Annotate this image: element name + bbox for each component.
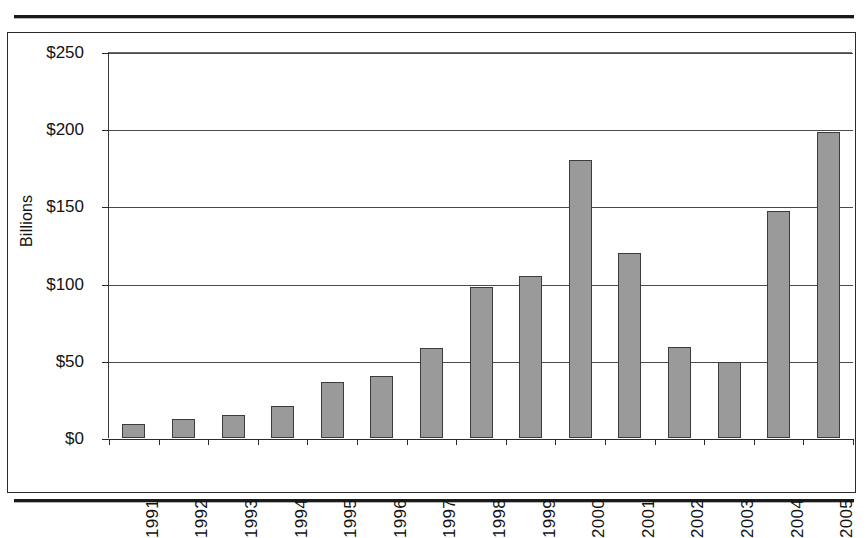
y-gridline [109,207,853,208]
x-axis-tick [704,439,705,445]
y-axis-tick [102,53,109,54]
x-axis-label: 1996 [391,499,411,538]
x-axis-label: 1994 [292,499,312,538]
y-axis-label: $0 [14,429,84,449]
y-axis-label: $200 [14,120,84,140]
x-axis-label: 1993 [242,499,262,538]
bar [519,276,542,438]
x-axis-tick [159,439,160,445]
x-axis-tick [357,439,358,445]
x-axis-tick [208,439,209,445]
bar [767,211,790,438]
x-axis-tick [655,439,656,445]
x-axis-tick [407,439,408,445]
bar [668,347,691,438]
y-axis-tick [102,439,109,440]
bar [470,287,493,438]
bar [321,382,344,438]
y-axis-label: $50 [14,352,84,372]
x-axis-label: 1998 [490,499,510,538]
y-axis-tick [102,362,109,363]
y-axis-tick [102,130,109,131]
x-axis-label: 1995 [341,499,361,538]
bar [222,415,245,438]
x-axis-tick [853,439,854,445]
x-axis-tick [109,439,110,445]
bar [618,253,641,438]
x-axis-label: 1999 [540,499,560,538]
x-axis-label: 1997 [440,499,460,538]
x-axis-tick [456,439,457,445]
y-gridline [109,53,853,54]
y-axis-tick [102,207,109,208]
bar [122,424,145,438]
bar [271,406,294,438]
bar [718,362,741,438]
y-axis-label: $250 [14,43,84,63]
x-axis-tick [307,439,308,445]
bar [172,419,195,438]
plot-area: $0$50$100$150$200$2501991199219931994199… [108,52,852,438]
x-axis-label: 1992 [192,499,212,538]
y-gridline [109,130,853,131]
bar [569,160,592,438]
x-axis-tick [803,439,804,445]
x-axis-label: 2004 [788,499,808,538]
x-axis-tick [605,439,606,445]
x-axis-label: 2002 [688,499,708,538]
bar [420,348,443,438]
y-axis-label: $150 [14,197,84,217]
x-axis-tick [506,439,507,445]
y-axis-tick [102,285,109,286]
x-axis-label: 2003 [738,499,758,538]
x-axis-label: 1991 [143,499,163,538]
x-axis-tick [754,439,755,445]
bar [370,376,393,438]
x-axis-label: 2000 [589,499,609,538]
y-axis-label: $100 [14,275,84,295]
x-axis-label: 2001 [639,499,659,538]
x-axis-label: 2005 [837,499,857,538]
y-gridline [109,439,853,440]
x-axis-tick [555,439,556,445]
x-axis-tick [258,439,259,445]
bar [817,132,840,438]
y-gridline [109,285,853,286]
